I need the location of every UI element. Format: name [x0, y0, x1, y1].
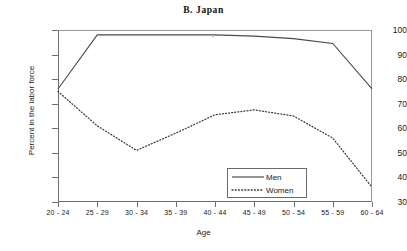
- x-tick-mark: [137, 202, 138, 207]
- legend-swatch-dotted-line-icon: [231, 185, 265, 195]
- x-tick-mark: [294, 202, 295, 207]
- series-lines: [58, 30, 372, 202]
- chart-legend: Men Women: [227, 168, 307, 198]
- x-tick-label: 35 - 39: [154, 209, 198, 216]
- x-tick-label: 25 - 29: [75, 209, 119, 216]
- y-axis-label: Percent in the labor force: [27, 36, 36, 186]
- scan-artifact-speck: [212, 35, 214, 37]
- x-tick-label: 60 - 64: [350, 209, 394, 216]
- chart-figure: B. Japan Percent in the labor force Age …: [0, 0, 407, 251]
- x-tick-label: 45 - 49: [232, 209, 276, 216]
- x-tick-mark: [58, 202, 59, 207]
- x-axis-label: Age: [0, 228, 407, 237]
- x-tick-label: 30 - 34: [115, 209, 159, 216]
- legend-label-women: Women: [266, 186, 293, 195]
- series-line-men: [58, 35, 372, 89]
- chart-title: B. Japan: [0, 5, 407, 15]
- x-tick-label: 40 - 44: [193, 209, 237, 216]
- plot-area: [58, 30, 372, 202]
- x-tick-label: 20 - 24: [36, 209, 80, 216]
- series-line-women: [58, 91, 372, 187]
- x-tick-label: 55 - 59: [311, 209, 355, 216]
- x-tick-label: 50 - 54: [272, 209, 316, 216]
- x-tick-mark: [215, 202, 216, 207]
- legend-label-men: Men: [266, 173, 282, 182]
- legend-item-men: Men: [228, 170, 306, 184]
- x-tick-mark: [97, 202, 98, 207]
- legend-swatch-solid-line-icon: [231, 172, 265, 182]
- x-tick-mark: [372, 202, 373, 207]
- x-tick-mark: [176, 202, 177, 207]
- x-tick-mark: [333, 202, 334, 207]
- x-tick-mark: [254, 202, 255, 207]
- legend-item-women: Women: [228, 183, 306, 197]
